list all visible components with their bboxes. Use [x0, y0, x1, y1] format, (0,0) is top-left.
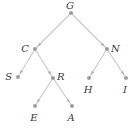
edge-G-N [71, 13, 107, 49]
tree-node-I: I [122, 76, 128, 95]
tree-node-S: S [5, 71, 20, 82]
node-label: H [83, 84, 93, 95]
node-dot-icon [124, 76, 128, 80]
node-label: I [122, 84, 128, 95]
edge-G-C [35, 13, 71, 49]
tree-edges [18, 13, 126, 106]
node-dot-icon [16, 75, 20, 79]
tree-node-C: C [21, 43, 36, 54]
node-dot-icon [33, 104, 37, 108]
tree-node-A: A [66, 104, 74, 123]
node-dot-icon [87, 76, 91, 80]
node-label: R [56, 71, 65, 82]
node-label: C [21, 43, 29, 54]
tree-node-G: G [66, 0, 74, 15]
arrowhead-icon [91, 71, 94, 75]
node-label: G [66, 0, 74, 11]
tree-node-E: E [29, 104, 38, 123]
arrowhead-icon [37, 99, 41, 103]
node-label: E [29, 112, 38, 123]
node-dot-icon [70, 104, 74, 108]
tree-nodes: GCNSRHIEA [5, 0, 128, 123]
arrowhead-icon [20, 70, 23, 74]
tree-node-N: N [105, 43, 121, 54]
binary-tree-diagram: GCNSRHIEA [0, 0, 139, 130]
node-label: A [66, 112, 74, 123]
node-label: N [110, 43, 121, 54]
node-dot-icon [51, 76, 55, 80]
node-dot-icon [105, 47, 109, 51]
tree-node-R: R [51, 71, 65, 82]
node-dot-icon [69, 11, 73, 15]
arrowhead-icon [48, 71, 51, 75]
node-label: S [5, 71, 12, 82]
tree-node-H: H [83, 76, 93, 95]
node-dot-icon [33, 47, 37, 51]
